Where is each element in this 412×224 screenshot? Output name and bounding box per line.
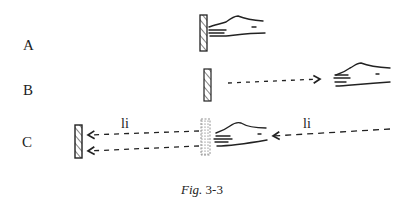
diagram-canvas — [0, 0, 412, 224]
mirror-block-c-left — [75, 125, 82, 158]
mirror-block-b — [204, 69, 211, 101]
arrow-c-lower — [88, 146, 199, 151]
hand-icon-b — [334, 63, 390, 86]
mirror-block-a — [200, 15, 207, 51]
arrow-c-upper — [88, 131, 199, 135]
arrow-b-outgoing — [228, 79, 320, 83]
hand-icon-c — [214, 123, 267, 146]
hand-icon-a — [209, 16, 265, 36]
mirror-block-c-stippled — [201, 119, 210, 155]
arrow-c-incoming — [273, 129, 390, 136]
